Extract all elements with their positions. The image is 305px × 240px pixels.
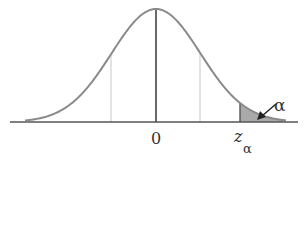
tail-area-label: α <box>274 95 285 115</box>
center-label: 0 <box>151 129 161 148</box>
critical-value-label: z <box>234 127 242 146</box>
critical-value-subscript: α <box>243 141 252 156</box>
